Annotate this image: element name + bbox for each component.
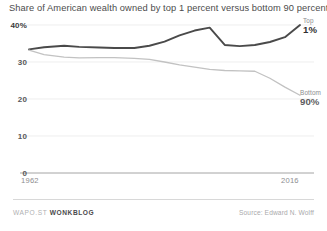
footer-source: Source: Edward N. Wolff (239, 209, 314, 216)
series-label-top-1-percent: Top 1% (303, 17, 317, 35)
series-label-bottom-name: Bottom (300, 89, 321, 96)
y-axis-tick-10: 10 (1, 132, 27, 141)
y-axis-tick-30: 30 (1, 58, 27, 67)
y-axis-tick-20: 20 (1, 95, 27, 104)
series-line-top-1 (29, 25, 300, 49)
y-axis-tick-40: 40% (1, 21, 27, 30)
footer-credit-prefix: WAPO.ST (13, 209, 47, 216)
plot-svg (0, 0, 327, 190)
footer-credit: WAPO.ST WONKBLOG (13, 209, 94, 216)
series-label-top-name: Top (303, 17, 317, 24)
series-label-bottom-90-percent: Bottom 90% (300, 89, 321, 107)
gridlines (20, 25, 314, 173)
plot-area (0, 0, 327, 190)
footer-divider (13, 199, 314, 200)
footer-credit-brand: WONKBLOG (50, 209, 95, 216)
series-line-bottom-90 (29, 50, 300, 95)
chart-figure: Share of American wealth owned by top 1 … (0, 0, 327, 231)
series-label-bottom-value: 90% (300, 96, 321, 107)
x-axis-tick-end: 2016 (281, 176, 299, 185)
series-label-top-value: 1% (303, 24, 317, 35)
x-axis-tick-start: 1962 (21, 176, 39, 185)
series-lines (29, 25, 300, 95)
